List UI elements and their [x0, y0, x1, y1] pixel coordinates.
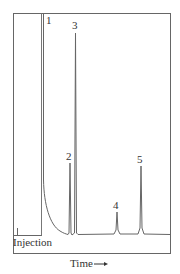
peak-label-3: 3 — [72, 20, 78, 31]
peak-2-trace — [68, 163, 72, 235]
peak-label-1: 1 — [46, 15, 52, 26]
time-axis-label: Time — [70, 258, 93, 269]
peak-label-5: 5 — [137, 154, 143, 165]
time-arrow-icon — [104, 262, 108, 266]
peaks-4-5-trace — [78, 166, 170, 235]
chromatogram-plot — [0, 0, 180, 274]
peak-3-trace — [72, 33, 78, 235]
injection-label: Injection — [13, 237, 52, 248]
plot-frame — [14, 14, 171, 254]
peak-label-4: 4 — [113, 200, 119, 211]
peak-1-trace — [44, 14, 69, 235]
peak-label-2: 2 — [66, 151, 72, 162]
